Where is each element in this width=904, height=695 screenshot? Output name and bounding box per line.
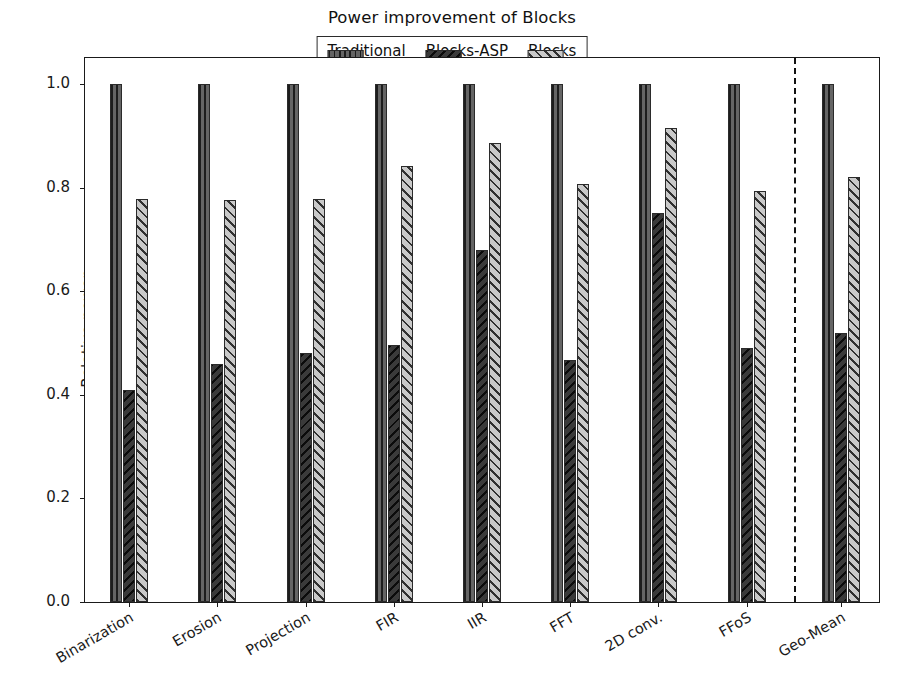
bar-blocks-asp-binarization — [123, 390, 135, 602]
bar-traditional-erosion — [198, 84, 210, 602]
bars-layer — [85, 58, 879, 602]
bar-blocks-asp-2d-conv- — [652, 213, 664, 602]
bar-blocks-projection — [313, 199, 325, 602]
y-tick-label: 0.4 — [46, 385, 70, 403]
bar-blocks-binarization — [136, 199, 148, 602]
bar-blocks-iir — [489, 143, 501, 602]
y-tick-label: 0.8 — [46, 178, 70, 196]
bar-traditional-fft — [551, 84, 563, 602]
y-tick-mark — [80, 395, 85, 396]
bar-blocks-fft — [577, 184, 589, 602]
y-axis-tick-labels: 0.00.20.40.60.81.0 — [0, 57, 78, 603]
y-tick-label: 0.0 — [46, 592, 70, 610]
bar-blocks-asp-fir — [388, 345, 400, 602]
bar-traditional-ffos — [728, 84, 740, 602]
x-axis-tick-labels: BinarizationErosionProjectionFIRIIRFFT2D… — [84, 603, 880, 695]
bar-blocks-asp-iir — [476, 250, 488, 602]
bar-blocks-asp-erosion — [211, 364, 223, 602]
y-tick-label: 1.0 — [46, 74, 70, 92]
bar-blocks-ffos — [754, 191, 766, 602]
y-tick-label: 0.6 — [46, 281, 70, 299]
y-tick-mark — [80, 498, 85, 499]
y-tick-mark — [80, 188, 85, 189]
bar-traditional-projection — [287, 84, 299, 602]
bar-blocks-geo-mean — [848, 177, 860, 602]
bar-traditional-2d-conv- — [639, 84, 651, 602]
plot-area — [84, 57, 880, 603]
bar-blocks-fir — [401, 166, 413, 602]
y-tick-label: 0.2 — [46, 488, 70, 506]
bar-traditional-binarization — [110, 84, 122, 602]
bar-traditional-fir — [375, 84, 387, 602]
bar-blocks-asp-ffos — [741, 348, 753, 602]
geomean-separator-line — [794, 58, 796, 602]
y-tick-mark — [80, 84, 85, 85]
bar-blocks-asp-geo-mean — [835, 333, 847, 602]
bar-traditional-iir — [463, 84, 475, 602]
bar-blocks-asp-projection — [300, 353, 312, 602]
bar-blocks-asp-fft — [564, 360, 576, 602]
bar-traditional-geo-mean — [822, 84, 834, 602]
chart-title: Power improvement of Blocks — [0, 8, 904, 27]
y-tick-mark — [80, 291, 85, 292]
bar-blocks-2d-conv- — [665, 128, 677, 602]
bar-blocks-erosion — [224, 200, 236, 602]
chart-figure: Power improvement of Blocks Traditional … — [0, 0, 904, 695]
